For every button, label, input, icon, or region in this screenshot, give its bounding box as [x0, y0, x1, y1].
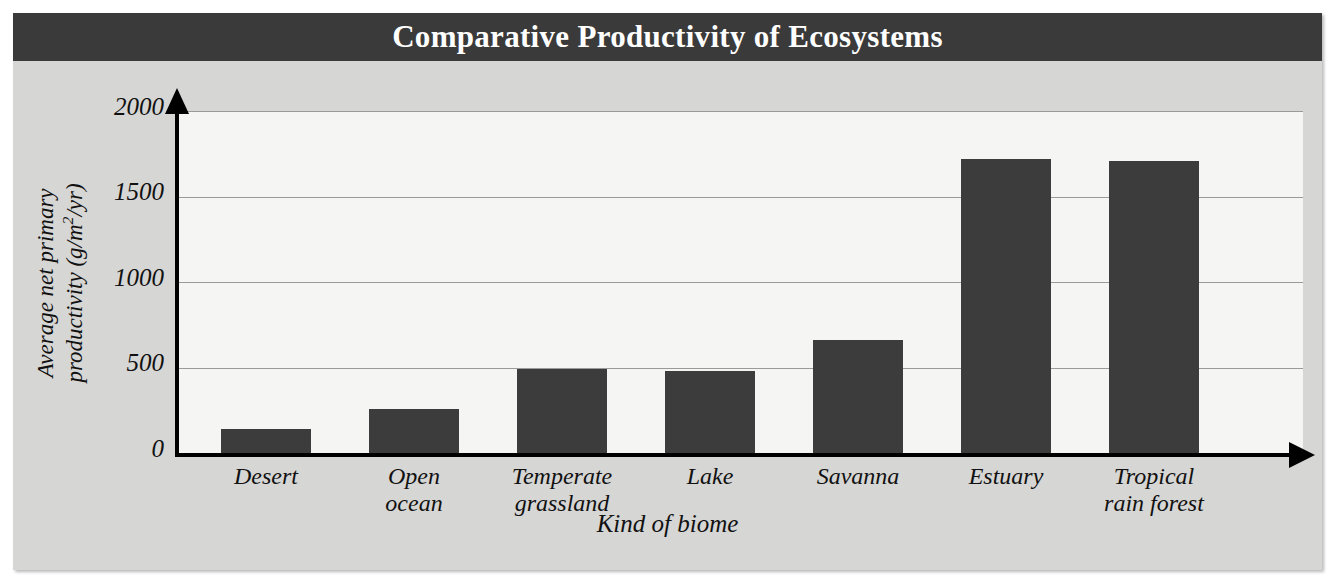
- x-category-label-estuary: Estuary: [926, 463, 1086, 490]
- bar-tropical-rain-forest[interactable]: [1109, 161, 1199, 453]
- x-axis-line: [175, 453, 1295, 457]
- figure-card: Comparative Productivity of Ecosystems A…: [13, 13, 1322, 570]
- x-category-label-line: Open: [334, 463, 494, 490]
- x-category-label-temperate-grassland: Temperate grassland: [472, 463, 652, 517]
- y-axis-label-superscript: 2: [59, 217, 76, 225]
- x-category-label-open-ocean: Open ocean: [334, 463, 494, 517]
- x-axis-arrow-icon: [1289, 442, 1315, 468]
- y-tick-label-1000: 1000: [44, 264, 164, 292]
- x-category-label-line: Lake: [630, 463, 790, 490]
- x-axis-label: Kind of biome: [13, 510, 1322, 538]
- bar-savanna[interactable]: [813, 340, 903, 453]
- bar-temperate-grassland[interactable]: [517, 369, 607, 453]
- x-category-label-line: Estuary: [926, 463, 1086, 490]
- gridline-2000: [176, 111, 1303, 112]
- bar-open-ocean[interactable]: [369, 409, 459, 453]
- y-axis-line: [175, 111, 179, 454]
- bar-desert[interactable]: [221, 429, 311, 453]
- x-category-label-lake: Lake: [630, 463, 790, 490]
- y-axis-arrow-icon: [165, 88, 189, 114]
- page-title: Comparative Productivity of Ecosystems: [392, 19, 943, 55]
- plot-area: 2000 1500 1000 500 0 Desert Open ocean T…: [176, 111, 1303, 453]
- x-category-label-desert: Desert: [186, 463, 346, 490]
- x-category-label-tropical-rain-forest: Tropical rain forest: [1064, 463, 1244, 517]
- bar-lake[interactable]: [665, 371, 755, 453]
- y-tick-label-2000: 2000: [44, 93, 164, 121]
- x-category-label-line: Desert: [186, 463, 346, 490]
- y-tick-label-1500: 1500: [44, 178, 164, 206]
- y-tick-label-500: 500: [44, 349, 164, 377]
- x-category-label-savanna: Savanna: [778, 463, 938, 490]
- bar-estuary[interactable]: [961, 159, 1051, 453]
- chart-title-banner: Comparative Productivity of Ecosystems: [13, 13, 1322, 61]
- x-category-label-line: Tropical: [1064, 463, 1244, 490]
- x-category-label-line: Temperate: [472, 463, 652, 490]
- y-tick-label-0: 0: [44, 435, 164, 463]
- x-category-label-line: Savanna: [778, 463, 938, 490]
